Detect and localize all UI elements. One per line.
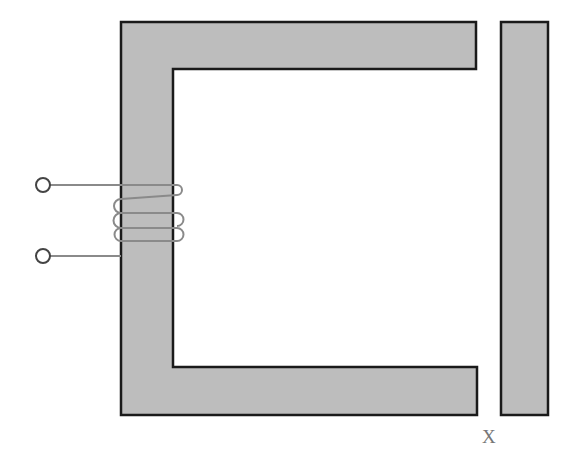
terminal-top	[36, 178, 50, 192]
terminal-bottom	[36, 249, 50, 263]
gap-label: X	[482, 426, 496, 448]
armature-bar	[501, 22, 548, 415]
c-core	[121, 22, 477, 415]
diagram-canvas	[0, 0, 575, 467]
